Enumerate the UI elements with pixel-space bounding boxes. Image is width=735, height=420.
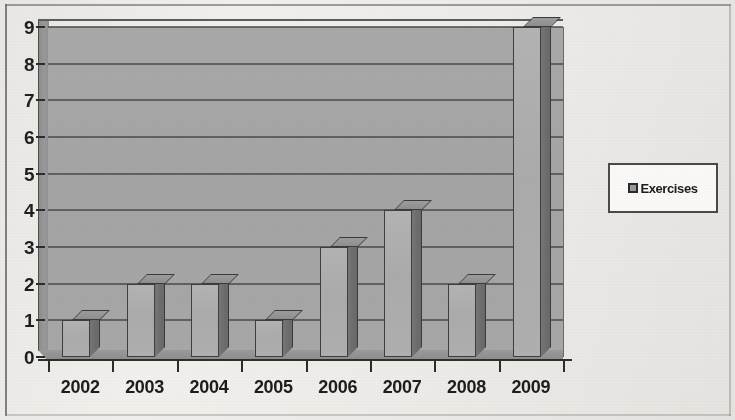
bar-2005 — [255, 320, 283, 357]
bar-top-face — [330, 237, 368, 247]
bar-front-face — [384, 210, 412, 357]
bar-2002 — [62, 320, 90, 357]
bar-side-face — [155, 274, 165, 357]
x-axis-tick — [306, 361, 308, 372]
legend-swatch-icon — [628, 183, 638, 193]
x-axis-tick — [499, 361, 501, 372]
bar-top-face — [201, 274, 239, 284]
bar-front-face — [127, 284, 155, 357]
x-axis-labels: 20022003200420052006200720082009 — [48, 378, 563, 402]
bar-side-face — [476, 274, 486, 357]
bar-side-face — [219, 274, 229, 357]
y-axis-tick — [36, 356, 45, 358]
x-axis-tick — [177, 361, 179, 372]
y-axis-tick-label: 4 — [8, 201, 34, 220]
bar-2003 — [127, 284, 155, 357]
bar-top-face — [394, 200, 432, 210]
x-axis-tick-label: 2003 — [112, 378, 176, 396]
bar-2008 — [448, 284, 476, 357]
y-axis-tick-label: 1 — [8, 311, 34, 330]
x-axis-tick — [112, 361, 114, 372]
x-axis-tick-label: 2008 — [434, 378, 498, 396]
x-axis-tick — [434, 361, 436, 372]
x-axis-tick-label: 2004 — [177, 378, 241, 396]
scanned-page: 0123456789 20022003200420052006200720082… — [0, 0, 735, 420]
y-axis-tick-label: 6 — [8, 128, 34, 147]
page-frame-right-border — [729, 4, 731, 416]
bar-top-face — [265, 310, 303, 320]
x-axis-tick-label: 2009 — [499, 378, 563, 396]
y-axis-tick-label: 2 — [8, 275, 34, 294]
y-axis-tick-label: 0 — [8, 348, 34, 367]
bar-top-face — [458, 274, 496, 284]
y-axis-tick — [36, 136, 45, 138]
bar-side-face — [348, 237, 358, 357]
x-axis-tick — [241, 361, 243, 372]
y-axis-tick-label: 7 — [8, 91, 34, 110]
bar-top-face — [72, 310, 110, 320]
bar-2004 — [191, 284, 219, 357]
bar-top-face — [137, 274, 175, 284]
plot-top-edge — [38, 19, 563, 21]
bar-front-face — [320, 247, 348, 357]
y-axis-tick — [36, 26, 45, 28]
y-axis-tick-label: 5 — [8, 165, 34, 184]
y-axis-tick — [36, 319, 45, 321]
x-axis-tick — [48, 361, 50, 372]
bar-chart: 0123456789 20022003200420052006200720082… — [0, 0, 600, 420]
bar-2006 — [320, 247, 348, 357]
y-axis-tick-label: 9 — [8, 18, 34, 37]
bar-front-face — [448, 284, 476, 357]
y-axis-labels: 0123456789 — [0, 27, 34, 357]
y-axis-tick — [36, 246, 45, 248]
y-axis-tick — [36, 99, 45, 101]
y-axis-tick-label: 3 — [8, 238, 34, 257]
y-axis-tick — [36, 63, 45, 65]
y-axis-tick-label: 8 — [8, 55, 34, 74]
bar-front-face — [513, 27, 541, 357]
x-axis-tick — [563, 361, 565, 372]
x-axis-tick — [370, 361, 372, 372]
bar-front-face — [191, 284, 219, 357]
chart-legend: Exercises — [608, 163, 718, 213]
bar-side-face — [412, 200, 422, 357]
x-axis-ticks — [48, 361, 578, 373]
bar-2007 — [384, 210, 412, 357]
y-axis-tick — [36, 173, 45, 175]
legend-entry: Exercises — [628, 181, 697, 196]
y-axis-tick — [36, 283, 45, 285]
y-axis-tick — [36, 209, 45, 211]
bar-2009 — [513, 27, 541, 357]
bar-series-exercises — [48, 27, 563, 357]
bar-front-face — [255, 320, 283, 357]
bar-side-face — [541, 17, 551, 357]
bar-front-face — [62, 320, 90, 357]
x-axis-tick-label: 2007 — [370, 378, 434, 396]
x-axis-tick-label: 2006 — [306, 378, 370, 396]
x-axis-tick-label: 2002 — [48, 378, 112, 396]
legend-label: Exercises — [640, 181, 697, 196]
x-axis-tick-label: 2005 — [241, 378, 305, 396]
